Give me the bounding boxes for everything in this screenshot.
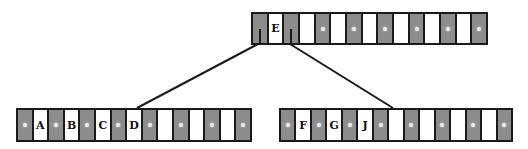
pointer-cell: [410, 14, 426, 43]
key-cell: [190, 110, 206, 140]
pointer-cell: [236, 110, 250, 140]
edge-root-to-left: [137, 44, 258, 108]
pointer-cell: [284, 14, 300, 43]
key-label: D: [129, 119, 139, 132]
key-label: E: [271, 22, 279, 35]
pointer-cell: [112, 110, 128, 140]
pointer-cell: [347, 14, 363, 43]
key-cell: D: [127, 110, 143, 140]
pointer-cell: [467, 110, 482, 140]
key-cell: [363, 14, 379, 43]
key-cell: F: [296, 110, 311, 140]
null-pointer-icon: [179, 123, 183, 127]
null-pointer-icon: [471, 123, 475, 127]
left-child-node: ABCD: [16, 108, 252, 142]
pointer-cell: [378, 14, 394, 43]
null-pointer-icon: [348, 123, 352, 127]
key-cell: [389, 110, 404, 140]
null-pointer-icon: [352, 27, 356, 31]
pointer-cell: [374, 110, 389, 140]
pointer-cell: [49, 110, 65, 140]
edge-root-to-right: [290, 44, 393, 108]
pointer-cell: [472, 14, 486, 43]
null-pointer-icon: [85, 123, 89, 127]
key-label: A: [36, 119, 45, 132]
null-pointer-icon: [317, 123, 321, 127]
null-pointer-icon: [502, 123, 506, 127]
null-pointer-icon: [477, 27, 481, 31]
null-pointer-icon: [54, 123, 58, 127]
pointer-cell: [316, 14, 332, 43]
pointer-cell: [312, 110, 327, 140]
null-pointer-icon: [415, 27, 419, 31]
null-pointer-icon: [148, 123, 152, 127]
pointer-cell: [343, 110, 358, 140]
key-cell: [451, 110, 466, 140]
pointer-cell: [281, 110, 296, 140]
null-pointer-icon: [321, 27, 325, 31]
pointer-cell: [436, 110, 451, 140]
key-cell: J: [358, 110, 373, 140]
key-cell: E: [269, 14, 285, 43]
key-label: F: [299, 119, 307, 132]
key-cell: B: [65, 110, 81, 140]
pointer-cell: [143, 110, 159, 140]
null-pointer-icon: [383, 27, 387, 31]
pointer-cell: [18, 110, 34, 140]
null-pointer-icon: [446, 27, 450, 31]
right-child-node: FGJ: [279, 108, 513, 142]
key-cell: [300, 14, 316, 43]
null-pointer-icon: [116, 123, 120, 127]
key-label: J: [362, 119, 367, 132]
null-pointer-icon: [409, 123, 413, 127]
key-label: C: [98, 119, 107, 132]
key-cell: G: [327, 110, 342, 140]
pointer-cell: [405, 110, 420, 140]
pointer-cell: [441, 14, 457, 43]
pointer-cell: [174, 110, 190, 140]
pointer-cell: [498, 110, 511, 140]
null-pointer-icon: [286, 123, 290, 127]
key-cell: [331, 14, 347, 43]
null-pointer-icon: [241, 123, 245, 127]
key-cell: [457, 14, 473, 43]
key-cell: C: [96, 110, 112, 140]
null-pointer-icon: [210, 123, 214, 127]
key-cell: [482, 110, 497, 140]
pointer-cell: [253, 14, 269, 43]
pointer-link-icon: [290, 29, 292, 44]
key-cell: [221, 110, 237, 140]
key-cell: [394, 14, 410, 43]
key-cell: [425, 14, 441, 43]
pointer-link-icon: [259, 29, 261, 44]
key-cell: A: [34, 110, 50, 140]
key-label: G: [329, 119, 338, 132]
root-node: E: [251, 12, 488, 45]
key-cell: [420, 110, 435, 140]
pointer-cell: [80, 110, 96, 140]
null-pointer-icon: [379, 123, 383, 127]
null-pointer-icon: [23, 123, 27, 127]
null-pointer-icon: [440, 123, 444, 127]
key-label: B: [67, 119, 76, 132]
key-cell: [158, 110, 174, 140]
pointer-cell: [205, 110, 221, 140]
